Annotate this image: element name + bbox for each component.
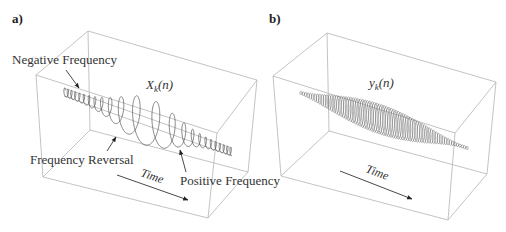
spindle-loop (444, 137, 446, 145)
positive-frequency-label: Positive Frequency (180, 173, 281, 188)
spindle-loop (307, 93, 309, 98)
box-edge (273, 76, 281, 176)
spindle-loop (461, 145, 463, 148)
spindle-loop (330, 95, 334, 111)
box-edge (88, 31, 90, 130)
panel-a-label: a) (12, 11, 23, 26)
spindle-loop (442, 136, 444, 145)
spindle-loop (447, 138, 449, 145)
spindle-loop (316, 94, 318, 103)
negative-frequency-label: Negative Frequency (12, 52, 118, 67)
frequency-reversal-arrow (107, 137, 116, 151)
box-edge (327, 33, 329, 131)
spindle-loop (452, 141, 454, 146)
box-edge (273, 33, 327, 76)
signal-label-b: yk(n) (367, 75, 394, 92)
panel-a: a) Xk(n) Negative Frequency Frequency (12, 11, 281, 218)
box-edge (273, 76, 455, 133)
spindle-loop (314, 94, 316, 102)
spindle-signal (300, 92, 468, 150)
time-label-a: Time (139, 166, 166, 187)
spindle-loop (312, 93, 314, 100)
frequency-reversal-label: Frequency Reversal (30, 152, 134, 167)
spindle-loop (463, 146, 465, 149)
box-edge (281, 176, 448, 220)
box-edge (455, 82, 496, 133)
spindle-loop (302, 92, 304, 96)
box-edge (487, 82, 496, 174)
positive-frequency-arrow (180, 150, 186, 172)
spindle-loop (300, 92, 302, 95)
figure: a) Xk(n) Negative Frequency Frequency (0, 0, 506, 232)
time-label-b: Time (364, 162, 391, 183)
spindle-loop (456, 143, 458, 146)
spindle-loop (459, 144, 461, 147)
spindle-loop (305, 92, 307, 96)
spindle-loop (466, 147, 468, 150)
signal-label-a: Xk(n) (145, 77, 173, 94)
box-edge (217, 80, 257, 133)
spindle-loop (309, 93, 311, 99)
panel-b-box (273, 33, 496, 220)
panel-b-label: b) (269, 11, 281, 26)
box-edge (448, 133, 455, 220)
box-edge (448, 174, 487, 220)
box-edge (327, 33, 496, 82)
spindle-loop (449, 140, 451, 146)
panel-b: b) yk(n) Time (269, 11, 496, 220)
box-edge (281, 131, 329, 176)
box-edge (36, 75, 217, 133)
box-edge (248, 80, 257, 172)
